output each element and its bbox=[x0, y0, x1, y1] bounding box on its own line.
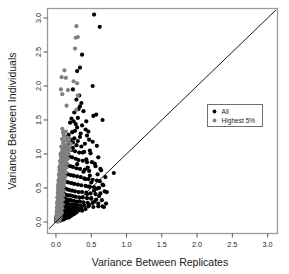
data-point bbox=[72, 174, 76, 178]
data-point bbox=[78, 167, 82, 171]
data-point bbox=[84, 119, 88, 123]
data-point bbox=[71, 87, 75, 91]
legend-marker-highest-5-percent bbox=[213, 119, 217, 123]
data-point bbox=[61, 130, 65, 134]
data-point bbox=[73, 47, 77, 51]
data-point bbox=[91, 205, 95, 209]
data-point bbox=[87, 138, 91, 142]
data-point bbox=[80, 209, 84, 213]
data-point bbox=[59, 87, 63, 91]
data-point bbox=[76, 116, 80, 120]
y-tick-label: 2.5 bbox=[34, 47, 43, 57]
data-point bbox=[57, 219, 61, 223]
data-point bbox=[96, 155, 100, 159]
data-point bbox=[104, 201, 108, 205]
data-point bbox=[85, 196, 89, 200]
data-point bbox=[75, 81, 79, 85]
legend: AllHighest 5% bbox=[208, 105, 263, 127]
data-point bbox=[99, 168, 103, 172]
data-point bbox=[83, 177, 87, 181]
data-point bbox=[100, 198, 104, 202]
data-point bbox=[81, 109, 85, 113]
y-tick-label: 0.5 bbox=[34, 183, 43, 193]
data-point bbox=[95, 144, 99, 148]
data-point bbox=[93, 199, 97, 203]
y-tick-label: 2.0 bbox=[34, 81, 43, 91]
data-point bbox=[84, 157, 88, 161]
data-point bbox=[81, 170, 85, 174]
data-point bbox=[95, 172, 99, 176]
data-point bbox=[100, 118, 104, 122]
x-tick-label: 2.5 bbox=[227, 240, 237, 249]
data-point bbox=[81, 151, 85, 155]
x-tick-label: 0.5 bbox=[86, 240, 96, 249]
data-point bbox=[76, 93, 80, 97]
data-point bbox=[76, 182, 80, 186]
x-axis-title: Variance Between Replicates bbox=[92, 256, 228, 268]
data-point bbox=[80, 53, 84, 57]
data-point bbox=[66, 88, 70, 92]
data-point bbox=[60, 92, 64, 96]
scatter-plot-figure: 0.00.51.01.52.02.53.0 0.00.51.01.52.02.5… bbox=[0, 0, 289, 274]
y-tick-label: 3.0 bbox=[34, 13, 43, 23]
x-tick-label: 1.0 bbox=[122, 240, 132, 249]
data-point bbox=[100, 182, 104, 186]
data-point bbox=[86, 184, 90, 188]
data-point bbox=[60, 75, 64, 79]
data-point bbox=[105, 190, 109, 194]
data-point bbox=[74, 143, 78, 147]
data-point bbox=[74, 166, 78, 170]
data-point bbox=[74, 36, 78, 40]
data-point bbox=[91, 140, 95, 144]
data-point bbox=[64, 104, 68, 108]
data-point bbox=[85, 134, 89, 138]
y-axis-title: Variance Between Individuals bbox=[6, 53, 18, 190]
scatter-plot-screenshot: 0.00.51.01.52.02.53.0 0.00.51.01.52.02.5… bbox=[0, 0, 289, 274]
legend-label: All bbox=[222, 108, 230, 115]
data-point bbox=[73, 189, 77, 193]
data-point bbox=[60, 137, 64, 141]
data-point bbox=[112, 171, 116, 175]
data-point bbox=[91, 84, 95, 88]
data-point bbox=[93, 164, 97, 168]
data-point bbox=[87, 203, 91, 207]
data-point bbox=[88, 191, 92, 195]
data-point bbox=[92, 189, 96, 193]
data-point bbox=[74, 195, 78, 199]
data-point bbox=[74, 108, 78, 112]
x-tick-label: 3.0 bbox=[263, 240, 273, 249]
data-point bbox=[92, 13, 96, 17]
data-point bbox=[62, 68, 66, 72]
data-point bbox=[55, 215, 59, 219]
x-tick-label: 2.0 bbox=[192, 240, 202, 249]
data-point bbox=[91, 114, 95, 118]
x-tick-label: 0.0 bbox=[51, 240, 61, 249]
data-point bbox=[79, 183, 83, 187]
data-point bbox=[80, 190, 84, 194]
data-point bbox=[78, 66, 82, 70]
data-point bbox=[72, 182, 76, 186]
y-tick-label: 1.0 bbox=[34, 149, 43, 159]
data-point bbox=[88, 148, 92, 152]
data-point bbox=[75, 174, 79, 178]
data-point bbox=[96, 204, 100, 208]
legend-marker-all bbox=[213, 110, 217, 114]
data-point bbox=[80, 123, 84, 127]
y-tick-label: 1.5 bbox=[34, 115, 43, 125]
data-point bbox=[60, 148, 64, 152]
data-point bbox=[88, 174, 92, 178]
data-point bbox=[64, 76, 68, 80]
data-point bbox=[86, 165, 90, 169]
data-point bbox=[89, 180, 93, 184]
data-point bbox=[79, 144, 83, 148]
data-point bbox=[76, 158, 80, 162]
legend-label: Highest 5% bbox=[222, 117, 256, 125]
data-point bbox=[89, 196, 93, 200]
data-point bbox=[90, 160, 94, 164]
data-point bbox=[72, 79, 76, 83]
data-point bbox=[76, 139, 80, 143]
data-point bbox=[75, 69, 79, 73]
data-point bbox=[78, 135, 82, 139]
y-tick-label: 0.0 bbox=[34, 217, 43, 227]
data-point bbox=[68, 121, 72, 125]
